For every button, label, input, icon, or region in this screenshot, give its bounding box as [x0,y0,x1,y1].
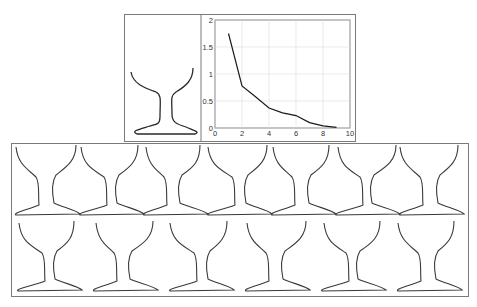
y-tick-label: 0.5 [203,97,213,106]
x-tick-label: 10 [346,129,354,138]
line-chart: 024681000.511.52 [203,16,355,139]
reference-glass-shape [131,68,197,134]
x-tick-label: 4 [267,129,271,138]
x-tick-label: 6 [294,129,298,138]
x-tick-label: 0 [213,129,217,138]
x-tick-label: 2 [240,129,244,138]
bottom-panel [11,143,469,297]
y-tick-label: 1.5 [203,43,213,52]
y-tick-label: 0 [209,124,213,133]
y-tick-label: 1 [209,70,213,79]
x-tick-label: 8 [321,129,325,138]
y-tick-label: 2 [209,16,213,25]
